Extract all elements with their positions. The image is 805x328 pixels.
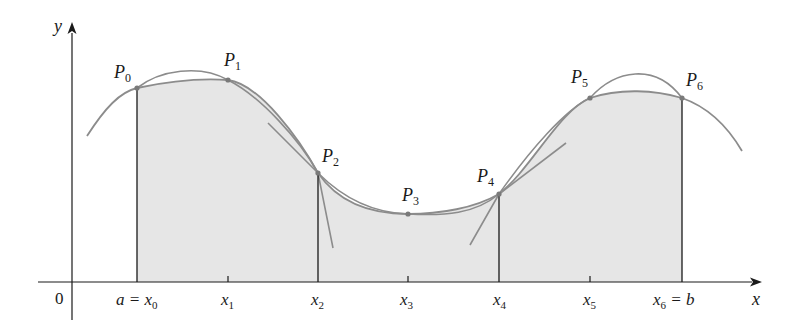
label-p1: P1: [223, 50, 241, 73]
point-p5: [587, 95, 592, 100]
y-axis-arrow-icon: [68, 22, 77, 34]
y-axis-label: y: [52, 16, 62, 36]
tick-label-x1: x1: [220, 290, 234, 311]
label-p0: P0: [113, 62, 131, 85]
point-p3: [405, 211, 410, 216]
label-p6: P6: [685, 70, 703, 93]
point-p2: [315, 170, 320, 175]
tick-label-x3: x3: [399, 290, 414, 311]
tick-label-x4: x4: [492, 290, 507, 311]
tick-label-x6: x6 = b: [652, 290, 695, 311]
point-p6: [679, 95, 684, 100]
label-p3: P3: [401, 185, 419, 208]
point-p0: [134, 85, 139, 90]
label-p2: P2: [321, 146, 339, 169]
simpsons-rule-figure: y x 0 P0 P1 P2 P3 P4 P5 P6 a = x0 x1 x2 …: [0, 0, 805, 328]
tick-label-x0: a = x0: [116, 290, 158, 311]
point-p1: [225, 77, 230, 82]
origin-label: 0: [55, 289, 64, 308]
shaded-area: [137, 79, 682, 282]
tick-label-x5: x5: [582, 290, 597, 311]
point-p4: [496, 191, 501, 196]
label-p4: P4: [476, 166, 494, 189]
label-p5: P5: [570, 67, 588, 90]
tick-label-x2: x2: [310, 290, 324, 311]
x-axis-label: x: [751, 289, 760, 309]
